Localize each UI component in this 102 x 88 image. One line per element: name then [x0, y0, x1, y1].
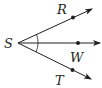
angle-mark-wst: [36, 43, 38, 52]
label-s: S: [4, 36, 13, 51]
point-w: [76, 41, 80, 45]
angle-mark-rsw: [37, 35, 39, 44]
label-w: W: [70, 50, 85, 65]
angle-diagram: S R W T: [0, 0, 102, 88]
point-t: [71, 68, 75, 72]
point-r: [71, 16, 75, 20]
label-t: T: [55, 73, 65, 88]
ray-sr: [18, 9, 92, 43]
ray-sw: [18, 41, 100, 45]
label-r: R: [56, 2, 67, 17]
